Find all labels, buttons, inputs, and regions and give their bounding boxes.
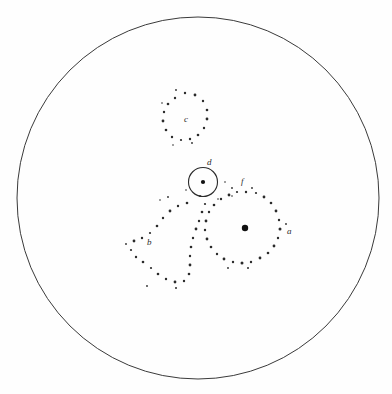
star-dot-b [159,199,161,201]
star-dot-b [157,273,160,276]
star-dot-b [188,273,191,276]
field-of-view-boundary-circle [17,17,379,379]
figure-container: a b c d f [0,0,392,394]
star-dot-b [169,210,172,213]
star-dot-b [174,281,177,284]
star-dot-a [213,204,216,207]
star-dot-b [175,287,177,289]
star-dot-a [227,267,229,269]
star-dot-b [130,249,132,251]
star-dot-c [171,136,173,138]
star-dot-b [167,196,169,198]
star-dot-b [165,278,167,280]
star-dot-a [231,187,233,189]
star-dot-c [206,109,209,112]
star-dot-a [267,252,270,255]
star-dot-b [149,232,151,234]
stray-dots [185,181,233,200]
astronomical-field-figure: a b c d f [0,0,392,394]
star-dot-b [177,205,179,207]
label-d: d [207,157,212,167]
star-dot-a [278,219,280,221]
star-dot-c [191,142,193,144]
star-dot-c [162,120,165,123]
star-dot-a [205,220,208,223]
star-dot-stray [185,189,187,191]
star-dot-b [189,255,191,257]
star-dot-b [198,220,200,222]
star-dot-a [204,229,206,231]
star-dot-stray [217,198,219,200]
label-b: b [147,237,152,247]
star-dot-b [192,237,194,239]
star-dot-a [208,211,210,213]
star-dot-a [263,196,266,199]
star-dot-a [255,192,257,194]
star-dot-c [174,97,176,99]
star-dot-a [270,202,273,205]
star-dot-b [183,280,185,282]
star-dot-b [146,285,148,287]
star-dot-a [228,194,231,197]
cluster-labels: a b c d f [147,114,292,247]
star-dot-a [275,210,278,213]
star-dot-a [250,261,252,263]
star-dot-c [172,144,174,146]
star-dot-b [162,217,164,219]
star-dot-c [202,100,204,102]
star-dot-b [141,237,143,239]
star-dot-c [206,118,209,121]
label-f: f [241,176,245,186]
star-dot-a [247,267,249,269]
star-dot-a [236,191,238,193]
star-dot-c [167,103,170,106]
star-dot-b [201,211,204,214]
star-dot-b [195,228,198,231]
star-dot-c [180,139,182,141]
star-dot-a [285,223,287,225]
star-dot-a [206,238,209,241]
cluster-a [204,187,287,269]
star-dot-a [277,237,279,239]
star-dot-c [165,129,168,132]
star-dot-c [175,89,177,91]
label-a: a [287,226,292,236]
star-dot-b [135,256,137,258]
star-dot-b [133,240,136,243]
star-dot-c [161,102,163,104]
cluster-a-nucleus-dot [242,225,248,231]
star-dot-a [259,257,262,260]
star-dot-a [232,261,234,263]
star-dot-a [223,258,226,261]
star-dot-b [189,264,192,267]
star-dot-b [186,202,189,205]
star-dot-a [279,228,282,231]
star-dot-c [163,111,165,113]
star-dot-c [194,94,197,97]
star-dot-b [204,203,206,205]
star-dot-a [251,187,253,189]
cluster-b [125,195,206,289]
label-c: c [184,114,188,124]
star-dot-c [197,134,200,137]
star-dot-b [156,225,159,228]
star-dot-a [273,245,276,248]
star-dot-c [184,92,186,94]
star-dot-b [142,261,145,264]
star-dot-stray [231,195,233,197]
circle-d-group [189,168,218,197]
circle-d-center-dot [201,180,205,184]
star-dot-b [125,243,127,245]
star-dot-c [189,138,191,140]
star-dot-b [190,246,193,249]
star-dot-a [210,246,213,249]
star-dot-a [216,253,218,255]
star-dot-stray [224,181,226,183]
star-dot-a [245,191,247,193]
star-dot-a [241,262,244,265]
field-boundary-group [17,17,379,379]
star-dot-c [203,127,205,129]
star-dot-a [220,198,222,200]
star-dot-b [150,267,152,269]
